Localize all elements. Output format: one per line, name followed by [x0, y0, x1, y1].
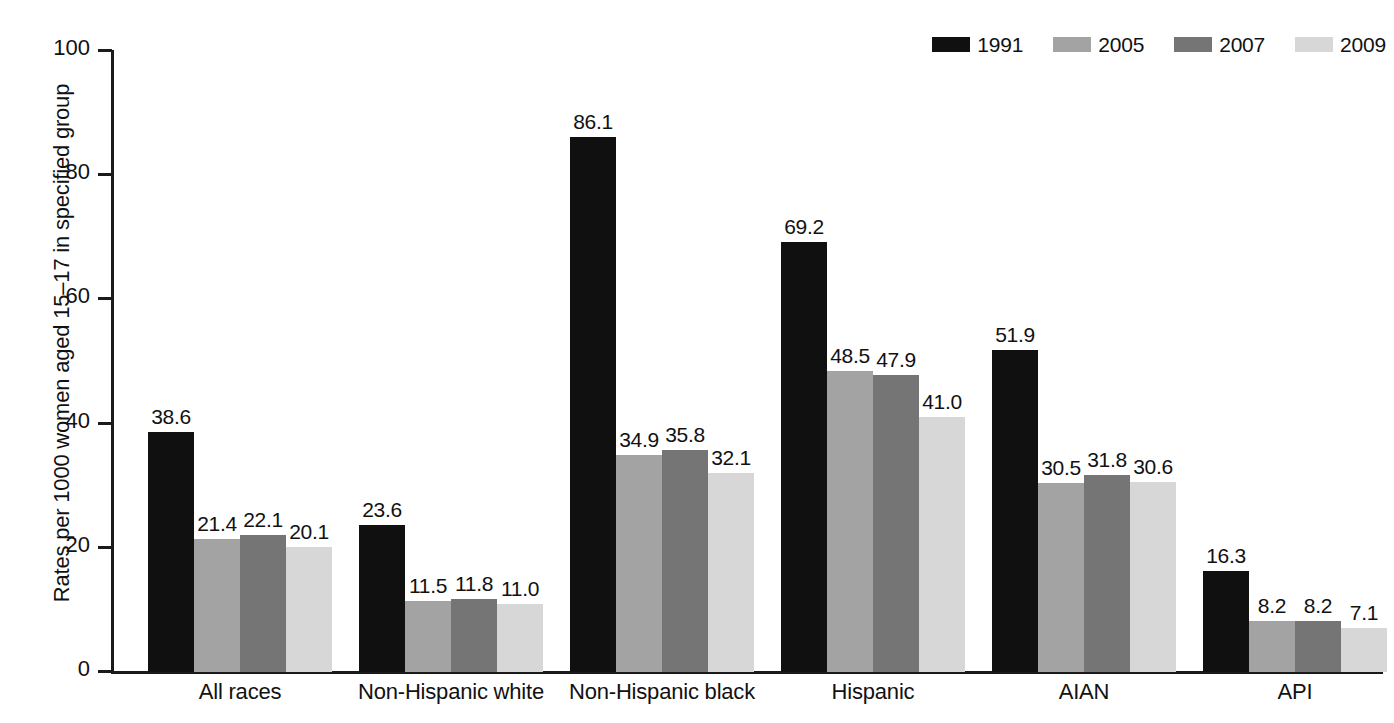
- bar-value-label: 51.9: [995, 324, 1035, 345]
- bar-2009[interactable]: 41.0: [919, 50, 965, 672]
- bar-rect[interactable]: [1295, 621, 1341, 672]
- bar-group-bars: 86.134.935.832.1: [570, 50, 754, 672]
- bar-group-api: 16.38.28.27.1API: [1203, 50, 1387, 672]
- bar-value-label: 8.2: [1258, 595, 1286, 616]
- bar-value-label: 11.8: [455, 573, 493, 594]
- y-tick-mark: [98, 297, 112, 300]
- bar-2007[interactable]: 22.1: [240, 50, 286, 672]
- bar-group-bars: 16.38.28.27.1: [1203, 50, 1387, 672]
- bar-1991[interactable]: 38.6: [148, 50, 194, 672]
- y-tick-label: 80: [10, 161, 90, 183]
- bar-2007[interactable]: 11.8: [451, 50, 497, 672]
- bar-2005[interactable]: 48.5: [827, 50, 873, 672]
- bar-group-bars: 69.248.547.941.0: [781, 50, 965, 672]
- bar-2009[interactable]: 11.0: [497, 50, 543, 672]
- bar-rect[interactable]: [662, 450, 708, 672]
- y-axis-tick-0: 0: [0, 670, 112, 673]
- y-axis-tick-80: 80: [0, 173, 112, 176]
- bar-rect[interactable]: [240, 535, 286, 672]
- bar-2007[interactable]: 8.2: [1295, 50, 1341, 672]
- y-tick-label: 100: [10, 37, 90, 59]
- bar-group-bars: 51.930.531.830.6: [992, 50, 1176, 672]
- x-axis-category-label: Non-Hispanic black: [569, 680, 755, 704]
- bar-value-label: 35.8: [665, 424, 705, 445]
- bar-rect[interactable]: [359, 525, 405, 672]
- bar-group-bars: 38.621.422.120.1: [148, 50, 332, 672]
- y-tick-mark: [98, 546, 112, 549]
- bar-rect[interactable]: [286, 547, 332, 672]
- bar-2007[interactable]: 35.8: [662, 50, 708, 672]
- bar-rect[interactable]: [1249, 621, 1295, 672]
- bar-1991[interactable]: 51.9: [992, 50, 1038, 672]
- bar-2009[interactable]: 20.1: [286, 50, 332, 672]
- bar-2005[interactable]: 21.4: [194, 50, 240, 672]
- bar-1991[interactable]: 23.6: [359, 50, 405, 672]
- bar-rect[interactable]: [405, 601, 451, 672]
- bar-group-aian: 51.930.531.830.6AIAN: [992, 50, 1176, 672]
- plot-area: 38.621.422.120.1All races23.611.511.811.…: [114, 50, 1384, 672]
- y-tick-label: 0: [10, 658, 90, 680]
- bar-rect[interactable]: [919, 417, 965, 672]
- bar-group-hispanic: 69.248.547.941.0Hispanic: [781, 50, 965, 672]
- bar-rect[interactable]: [570, 137, 616, 672]
- bar-2005[interactable]: 34.9: [616, 50, 662, 672]
- bar-rect[interactable]: [873, 375, 919, 672]
- bar-rect[interactable]: [451, 599, 497, 672]
- y-axis-tick-100: 100: [0, 49, 112, 52]
- bar-value-label: 48.5: [830, 345, 870, 366]
- bar-rect[interactable]: [781, 242, 827, 672]
- bar-value-label: 16.3: [1206, 545, 1246, 566]
- bar-2007[interactable]: 31.8: [1084, 50, 1130, 672]
- bar-2009[interactable]: 30.6: [1130, 50, 1176, 672]
- bar-2005[interactable]: 8.2: [1249, 50, 1295, 672]
- bar-value-label: 41.0: [922, 391, 962, 412]
- bar-1991[interactable]: 69.2: [781, 50, 827, 672]
- bar-rect[interactable]: [1203, 571, 1249, 672]
- y-tick-mark: [98, 670, 112, 673]
- y-tick-label: 60: [10, 285, 90, 307]
- bar-rect[interactable]: [616, 455, 662, 672]
- bar-2005[interactable]: 11.5: [405, 50, 451, 672]
- y-tick-mark: [98, 49, 112, 52]
- bar-rect[interactable]: [992, 350, 1038, 672]
- bar-1991[interactable]: 16.3: [1203, 50, 1249, 672]
- bar-group-bars: 23.611.511.811.0: [359, 50, 543, 672]
- x-axis-category-label: Hispanic: [832, 680, 915, 704]
- y-tick-label: 20: [10, 534, 90, 556]
- bar-group-non-hispanic-white: 23.611.511.811.0Non-Hispanic white: [359, 50, 543, 672]
- bar-rect[interactable]: [827, 371, 873, 672]
- x-axis-category-label: All races: [199, 680, 282, 704]
- bar-value-label: 47.9: [876, 349, 916, 370]
- bar-rect[interactable]: [708, 473, 754, 672]
- bar-value-label: 21.4: [197, 513, 237, 534]
- bar-value-label: 30.5: [1041, 457, 1081, 478]
- bar-rect[interactable]: [1130, 482, 1176, 672]
- bar-value-label: 86.1: [573, 111, 613, 132]
- bar-value-label: 69.2: [784, 216, 824, 237]
- y-axis-tick-40: 40: [0, 422, 112, 425]
- cropped-caption-sliver: [10, 712, 690, 723]
- bar-rect[interactable]: [148, 432, 194, 672]
- bar-rect[interactable]: [194, 539, 240, 672]
- bar-value-label: 23.6: [362, 499, 402, 520]
- bar-2007[interactable]: 47.9: [873, 50, 919, 672]
- bar-rect[interactable]: [1038, 483, 1084, 672]
- bar-rect[interactable]: [1084, 475, 1130, 672]
- bar-2009[interactable]: 7.1: [1341, 50, 1387, 672]
- bar-value-label: 20.1: [289, 521, 329, 542]
- bar-rect[interactable]: [497, 604, 543, 672]
- bar-value-label: 30.6: [1133, 456, 1173, 477]
- bar-value-label: 34.9: [619, 429, 659, 450]
- bar-2005[interactable]: 30.5: [1038, 50, 1084, 672]
- bar-value-label: 11.0: [501, 578, 539, 599]
- x-axis-category-label: Non-Hispanic white: [358, 680, 544, 704]
- y-axis-tick-20: 20: [0, 546, 112, 549]
- bar-value-label: 22.1: [243, 509, 283, 530]
- bar-2009[interactable]: 32.1: [708, 50, 754, 672]
- bar-1991[interactable]: 86.1: [570, 50, 616, 672]
- bar-value-label: 38.6: [151, 406, 191, 427]
- y-tick-label: 40: [10, 410, 90, 432]
- bar-group-non-hispanic-black: 86.134.935.832.1Non-Hispanic black: [570, 50, 754, 672]
- bar-rect[interactable]: [1341, 628, 1387, 672]
- bar-value-label: 11.5: [409, 575, 447, 596]
